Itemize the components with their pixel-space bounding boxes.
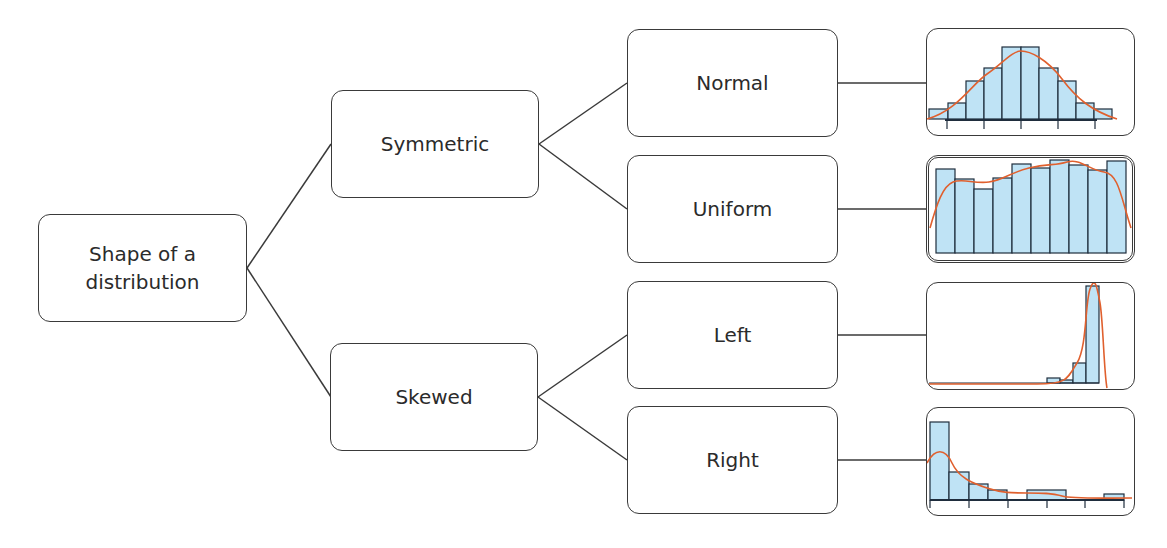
connector-symmetric-normal xyxy=(539,83,627,144)
right-label: Right xyxy=(706,446,759,474)
normal-node: Normal xyxy=(627,29,838,137)
right-skew-node: Right xyxy=(627,406,838,514)
skewed-label: Skewed xyxy=(395,383,472,411)
connector-skewed-right xyxy=(538,397,627,460)
connector-skewed-left xyxy=(538,335,627,397)
root-node: Shape of a distribution xyxy=(38,214,247,322)
normal-label: Normal xyxy=(696,69,768,97)
left-skewed-histogram-icon xyxy=(927,283,1135,390)
symmetric-node: Symmetric xyxy=(331,90,539,198)
uniform-node: Uniform xyxy=(627,155,838,263)
skewed-node: Skewed xyxy=(330,343,538,451)
uniform-label: Uniform xyxy=(693,195,773,223)
left-label: Left xyxy=(714,321,752,349)
right-skewed-histogram-thumbnail xyxy=(926,407,1135,516)
connector-symmetric-uniform xyxy=(539,144,627,209)
connector-root-skewed xyxy=(247,268,331,397)
uniform-histogram-thumbnail xyxy=(926,155,1135,263)
normal-histogram-icon xyxy=(927,29,1135,136)
uniform-histogram-icon xyxy=(929,158,1132,260)
right-skewed-histogram-icon xyxy=(927,408,1135,516)
normal-histogram-thumbnail xyxy=(926,28,1135,136)
connector-root-symmetric xyxy=(247,144,331,268)
left-skewed-histogram-thumbnail xyxy=(926,282,1135,390)
root-label: Shape of a distribution xyxy=(68,240,218,296)
left-skew-node: Left xyxy=(627,281,838,389)
symmetric-label: Symmetric xyxy=(381,130,489,158)
